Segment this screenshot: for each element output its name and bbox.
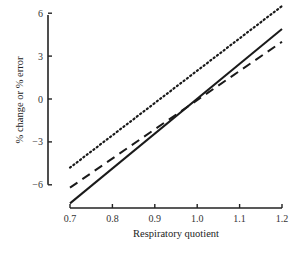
x-tick-label: 0.8: [106, 213, 119, 224]
y-tick-label: −6: [32, 179, 43, 190]
y-tick-label: 6: [38, 8, 43, 19]
x-axis: 0.70.80.91.01.11.2: [64, 204, 289, 224]
y-axis: 630−3−6: [32, 8, 52, 191]
x-tick-label: 0.7: [64, 213, 77, 224]
line-chart: 630−3−6 0.70.80.91.01.11.2 % change or %…: [0, 0, 304, 255]
x-tick-label: 0.9: [149, 213, 162, 224]
y-axis-label: % change or % error: [14, 56, 25, 143]
series-dotted-line: [70, 6, 282, 168]
series-dashed-line: [70, 42, 282, 188]
x-axis-label: Respiratory quotient: [133, 228, 219, 239]
x-tick-label: 1.2: [276, 213, 289, 224]
y-tick-label: 0: [38, 94, 43, 105]
y-tick-label: 3: [38, 51, 43, 62]
x-tick-label: 1.0: [191, 213, 204, 224]
series-solid-line: [70, 29, 282, 203]
x-tick-label: 1.1: [233, 213, 246, 224]
y-tick-label: −3: [32, 136, 43, 147]
series-lines: [70, 6, 282, 203]
